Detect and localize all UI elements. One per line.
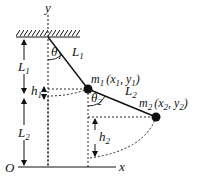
mass-1-label: m1(x1, y1) bbox=[91, 72, 140, 88]
origin-label: O bbox=[5, 160, 15, 175]
theta2-label: θ2 bbox=[91, 90, 102, 107]
y-axis-label: y bbox=[43, 0, 51, 15]
rod-1-label: L1 bbox=[71, 44, 84, 61]
h2-label: h2 bbox=[99, 129, 111, 146]
mass-2 bbox=[152, 113, 161, 122]
x-axis-label: x bbox=[118, 159, 125, 174]
L2-dimension-label: L2 bbox=[17, 125, 30, 142]
mass-2-label: m2(x2, y2) bbox=[139, 96, 188, 112]
L1-dimension-label: L1 bbox=[17, 59, 30, 76]
h1-label: h1 bbox=[31, 83, 42, 100]
double-pendulum-diagram: y x O θ1 θ2 L1 L2 L1 L2 h1 h2 m1(x1, y1)… bbox=[0, 0, 213, 181]
theta1-label: θ1 bbox=[51, 44, 62, 61]
